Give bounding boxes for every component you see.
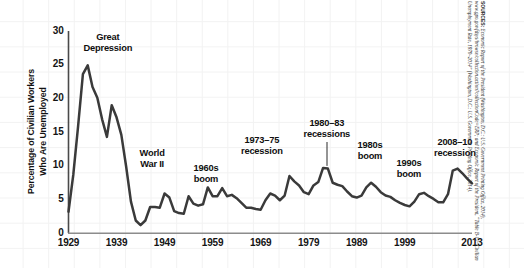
annotation-label-line-1: 1980–83 — [304, 118, 351, 129]
source-note: SOURCES: Economic Report of the Presiden… — [452, 0, 486, 268]
annotation-label-line-2: War II — [140, 159, 165, 170]
y-tick-label: 10 — [42, 159, 64, 170]
y-tick-label: 5 — [42, 193, 64, 204]
annotation-label-line-1: 1980s — [358, 140, 383, 151]
annotation-label-line-2: recession — [241, 146, 283, 157]
x-tick-label: 1989 — [334, 237, 380, 248]
annotation-1960s-boom: 1960sboom — [194, 163, 219, 186]
annotation-1980s-boom: 1980sboom — [358, 140, 383, 163]
annotation-label-line-1: 1990s — [397, 158, 422, 169]
x-tick-label: 1999 — [382, 237, 428, 248]
y-tick-label: 0 — [42, 227, 64, 238]
y-tick-label: 15 — [42, 126, 64, 137]
annotation-label-line-2: recessions — [304, 129, 351, 140]
source-note-text: Economic Report of the President (Washin… — [467, 1, 486, 261]
annotation-label-line-2: Depression — [84, 43, 133, 54]
annotation-label-line-2: boom — [194, 174, 219, 185]
annotation-1980-83-recessions: 1980–83recessions — [304, 118, 351, 141]
annotation-1973-75-recession: 1973–75recession — [241, 135, 283, 158]
annotation-great-depression: GreatDepression — [84, 32, 133, 55]
source-note-prefix: SOURCES: — [480, 1, 486, 29]
annotation-label-line-1: Great — [84, 32, 133, 43]
x-tick-label: 1979 — [286, 237, 332, 248]
annotation-label-line-2: boom — [358, 151, 383, 162]
y-tick-label: 30 — [42, 25, 64, 36]
annotation-label-line-1: World — [140, 148, 165, 159]
y-tick-label: 20 — [42, 92, 64, 103]
annotation-1990s-boom: 1990sboom — [397, 158, 422, 181]
y-tick-label: 25 — [42, 58, 64, 69]
x-tick-label: 1939 — [94, 237, 140, 248]
plot-area — [0, 0, 524, 268]
annotation-label-line-1: 1973–75 — [241, 135, 283, 146]
x-tick-label: 1929 — [46, 237, 92, 248]
x-tick-label: 1959 — [190, 237, 236, 248]
chart-figure: Percentage of Civilian Workers Who Are U… — [0, 0, 524, 268]
x-tick-label: 1969 — [238, 237, 284, 248]
annotation-label-line-1: 1960s — [194, 163, 219, 174]
annotation-label-line-2: boom — [397, 169, 422, 180]
x-tick-label: 1949 — [142, 237, 188, 248]
annotation-world-war-ii: WorldWar II — [140, 148, 165, 171]
